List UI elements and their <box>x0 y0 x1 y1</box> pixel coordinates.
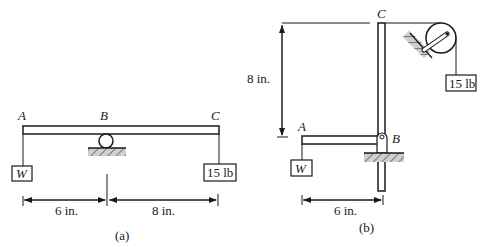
point-a-label: A <box>17 108 26 123</box>
weight-15lb-b-label: 15 lb <box>449 76 475 91</box>
dim-8in-b-label: 8 in. <box>247 71 270 86</box>
dim-6in-label: 6 in. <box>55 203 78 218</box>
ground-hatch-icon <box>88 148 126 156</box>
weight-15lb-label: 15 lb <box>207 165 233 180</box>
roller-support-icon <box>99 134 113 148</box>
weight-w-b-label: W <box>295 161 307 176</box>
caption-b: (b) <box>359 220 374 235</box>
bar-ab <box>302 136 382 144</box>
beam-abc <box>23 126 219 134</box>
bar-bc <box>378 23 385 191</box>
ground-hatch-b-icon <box>364 153 404 162</box>
dim-8in-label: 8 in. <box>152 203 175 218</box>
figure-b: C A B 8 in. 15 lb W 6 in. (b) <box>247 6 476 235</box>
caption-a: (a) <box>115 228 129 243</box>
dim-6in-b-label: 6 in. <box>334 203 357 218</box>
point-b-b-label: B <box>392 131 400 146</box>
point-b-label: B <box>100 108 108 123</box>
figure-a: A B C W 15 lb 6 in. 8 in. (a) <box>12 108 236 243</box>
point-c-b-label: C <box>377 6 386 21</box>
point-c-label: C <box>211 108 220 123</box>
point-a-b-label: A <box>297 119 306 134</box>
weight-w-label: W <box>16 166 28 181</box>
